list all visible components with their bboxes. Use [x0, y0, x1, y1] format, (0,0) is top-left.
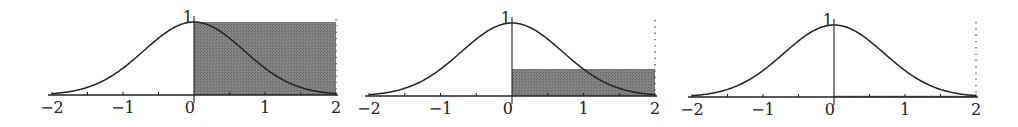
x-tick-label: −1: [429, 99, 453, 118]
y-tick-label: 1: [183, 8, 193, 27]
x-tick-label: 1: [578, 99, 588, 118]
x-tick-label: 2: [971, 100, 981, 119]
shaded-rectangle: [194, 22, 336, 95]
x-tick-label: −2: [680, 100, 704, 119]
x-tick-label: 0: [503, 99, 513, 118]
x-tick-label: 2: [331, 98, 341, 117]
x-tick-label: 2: [650, 99, 660, 118]
x-tick-label: 0: [185, 98, 195, 117]
y-tick-label: 1: [823, 11, 833, 30]
chart-panel-3: −2−10121: [680, 11, 981, 119]
x-tick-label: 0: [825, 100, 835, 119]
x-tick-label: 1: [260, 98, 270, 117]
chart-figure: −2−10121−2−10121−2−10121: [0, 0, 1018, 127]
chart-panel-1: −2−10121: [40, 8, 341, 117]
x-tick-label: −2: [357, 99, 381, 118]
x-tick-label: −2: [40, 98, 64, 117]
x-tick-label: −1: [751, 100, 775, 119]
chart-panel-2: −2−10121: [357, 9, 660, 118]
x-tick-label: −1: [111, 98, 135, 117]
x-tick-label: 1: [900, 100, 910, 119]
y-tick-label: 1: [501, 9, 511, 28]
